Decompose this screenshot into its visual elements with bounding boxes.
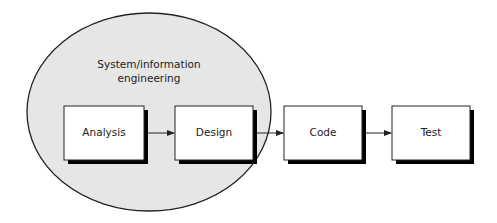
design-label: Design (175, 126, 253, 138)
group-label: System/information engineering (89, 57, 209, 85)
group-label-line1: System/information (89, 57, 209, 71)
code-label: Code (284, 126, 362, 138)
test-label: Test (392, 126, 470, 138)
diagram-canvas (0, 0, 497, 223)
analysis-label: Analysis (64, 126, 144, 138)
group-label-line2: engineering (89, 71, 209, 85)
